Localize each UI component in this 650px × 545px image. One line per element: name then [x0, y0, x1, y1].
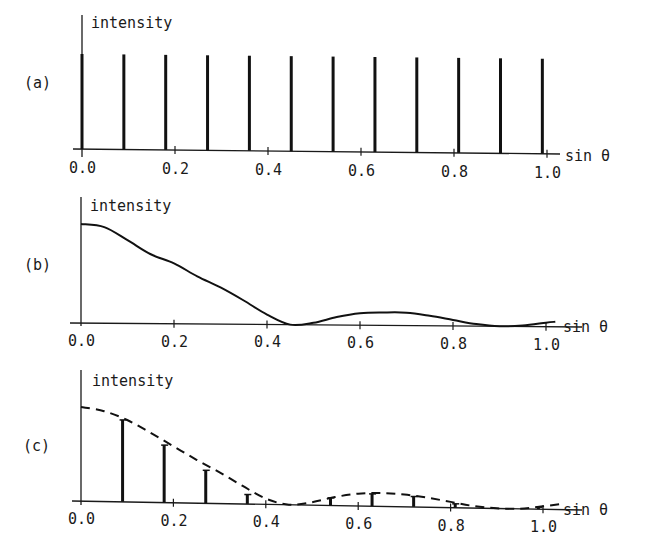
molecular-transform-curve-b	[81, 224, 555, 326]
x-tick-labels-c: 0.00.20.40.60.81.0	[68, 510, 557, 536]
x-tick-label: 1.0	[530, 518, 557, 536]
x-tick-labels-b: 0.00.20.40.60.81.0	[68, 332, 560, 354]
panel-c: (c) intensity sin θ 0.00.20.40.60.81.0	[23, 370, 608, 536]
x-tick-label: 0.4	[255, 161, 282, 179]
panel-label-a: (a)	[24, 74, 51, 92]
y-axis-label-c: intensity	[92, 372, 173, 390]
x-tick-label: 0.8	[441, 163, 468, 181]
y-axis-label-b: intensity	[90, 197, 171, 215]
x-tick-label: 0.4	[254, 333, 281, 351]
x-tick-label: 1.0	[534, 164, 561, 182]
x-ticks-a	[175, 146, 547, 158]
x-tick-label: 0.0	[68, 510, 95, 528]
reflection-spikes-a	[82, 54, 542, 154]
panel-label-b: (b)	[24, 256, 51, 274]
x-tick-label: 0.6	[345, 515, 372, 533]
x-tick-label: 0.2	[162, 160, 189, 178]
x-tick-label: 1.0	[533, 336, 560, 354]
panel-label-c: (c)	[23, 437, 50, 455]
x-tick-labels-a: 0.00.20.40.60.81.0	[69, 159, 561, 182]
x-axis-a	[73, 149, 560, 154]
panel-a: (a) intensity sin θ 0.00.20.40.60.81.0	[24, 14, 610, 182]
sampled-reflection-spikes-c	[120, 420, 543, 509]
x-tick-label: 0.8	[440, 335, 467, 353]
diffraction-figure: (a) intensity sin θ 0.00.20.40.60.81.0 (…	[0, 0, 650, 545]
x-tick-label: 0.2	[161, 333, 188, 351]
x-tick-label: 0.4	[253, 513, 280, 531]
panel-b: (b) intensity sin θ 0.00.20.40.60.81.0	[24, 197, 608, 354]
envelope-dashed-curve-c	[81, 407, 561, 509]
x-tick-label: 0.8	[438, 517, 465, 535]
x-ticks-c	[173, 499, 543, 514]
y-axis-label-a: intensity	[91, 14, 172, 32]
x-tick-label: 0.6	[347, 334, 374, 352]
x-tick-label: 0.2	[160, 512, 187, 530]
x-tick-label: 0.0	[69, 159, 96, 177]
x-tick-label: 0.6	[348, 162, 375, 180]
x-tick-label: 0.0	[68, 332, 95, 350]
x-axis-label-a: sin θ	[565, 147, 610, 165]
